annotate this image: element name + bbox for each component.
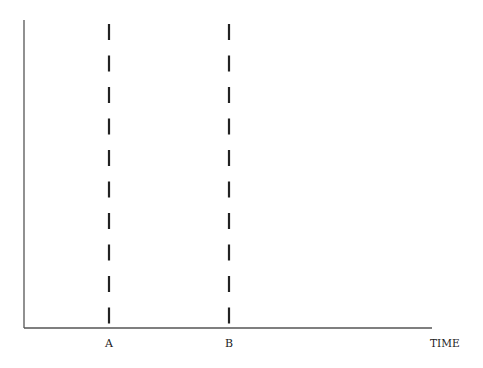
x-axis-label: TIME [430, 337, 460, 349]
marker-label-b: B [225, 337, 233, 350]
marker-label-a: A [105, 337, 113, 350]
timeline-diagram [0, 0, 483, 368]
